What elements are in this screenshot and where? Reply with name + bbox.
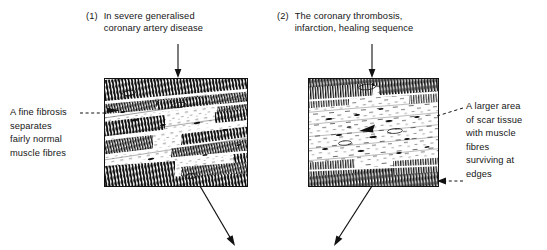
right-edge-leader — [437, 178, 463, 185]
caption-left-line-4: muscle fibres — [10, 147, 67, 161]
micrograph-panel-scar-tissue — [308, 78, 439, 187]
heading-panel-2-line-2: infarction, healing sequence — [295, 22, 414, 34]
caption-left-line-2: separates — [10, 120, 67, 134]
right-caption-leader — [437, 108, 463, 116]
heading-2-arrow — [369, 44, 376, 78]
caption-left-line-1: A fine fibrosis — [10, 106, 67, 120]
figure-canvas: (1) In severe generalised coronary arter… — [0, 0, 547, 250]
heading-1-arrow — [175, 44, 182, 78]
caption-right-line-6: edges — [466, 168, 522, 182]
panel-2-outflow-arrow — [334, 186, 372, 246]
heading-panel-2-lines: The coronary thrombosis, infarction, hea… — [295, 10, 414, 35]
caption-right-line-2: of scar tissue — [466, 114, 522, 128]
heading-panel-1-line-1: In severe generalised — [104, 10, 203, 22]
connector-overlay — [0, 0, 547, 250]
heading-panel-1: (1) In severe generalised coronary arter… — [86, 10, 203, 35]
micrograph-panel-diffuse-fibrosis — [104, 78, 248, 187]
caption-left: A fine fibrosis separates fairly normal … — [10, 106, 67, 160]
heading-panel-2: (2) The coronary thrombosis, infarction,… — [277, 10, 413, 35]
caption-left-line-3: fairly normal — [10, 133, 67, 147]
caption-right: A larger area of scar tissue with muscle… — [466, 100, 522, 182]
caption-right-line-5: surviving at — [466, 154, 522, 168]
heading-panel-1-number: (1) — [86, 10, 98, 22]
caption-right-line-1: A larger area — [466, 100, 522, 114]
heading-panel-2-number: (2) — [277, 10, 289, 22]
heading-panel-2-line-1: The coronary thrombosis, — [295, 10, 414, 22]
caption-right-line-3: with muscle — [466, 127, 522, 141]
caption-right-line-4: fibres — [466, 141, 522, 155]
heading-panel-1-lines: In severe generalised coronary artery di… — [104, 10, 203, 35]
heading-panel-1-line-2: coronary artery disease — [104, 22, 203, 34]
panel-1-artwork — [105, 79, 247, 186]
panel-1-outflow-arrow — [200, 186, 235, 246]
panel-2-artwork — [309, 79, 438, 186]
